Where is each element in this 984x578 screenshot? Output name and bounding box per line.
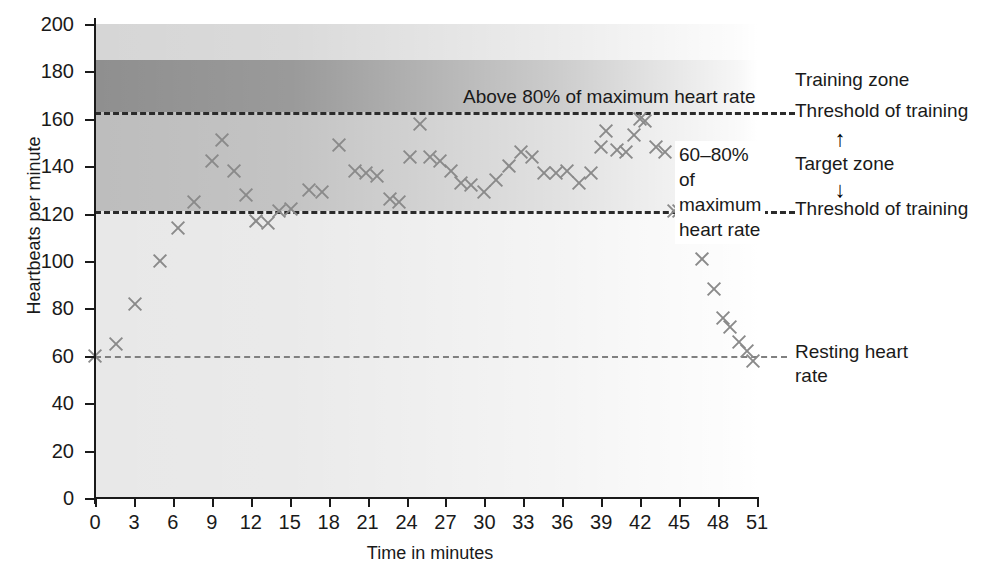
arrow-up-icon: ↑: [833, 131, 847, 147]
x-tick: [290, 498, 292, 507]
x-tick-label: 24: [387, 512, 427, 532]
x-tick-label: 33: [503, 512, 543, 532]
x-tick: [251, 498, 253, 507]
x-tick: [329, 498, 331, 507]
x-tick-label: 9: [192, 512, 232, 532]
x-tick: [679, 498, 681, 507]
y-tick: [85, 356, 95, 358]
target-zone-annotation: 60–80% of maximum heart rate: [675, 141, 765, 244]
x-tick: [445, 498, 447, 507]
x-tick-label: 45: [659, 512, 699, 532]
x-tick-label: 36: [542, 512, 582, 532]
legend-column: Training zone Threshold of training ↑ Ta…: [795, 0, 984, 578]
y-tick: [85, 24, 95, 26]
y-tick-label: 0: [28, 488, 74, 508]
x-tick: [484, 498, 486, 507]
chart-figure: Above 80% of maximum heart rate 60–80% o…: [0, 0, 984, 578]
arrow-down-icon: ↓: [833, 182, 847, 198]
x-tick-label: 15: [270, 512, 310, 532]
plot-area: Above 80% of maximum heart rate 60–80% o…: [95, 24, 757, 498]
x-tick: [718, 498, 720, 507]
x-tick: [212, 498, 214, 507]
below-target-band: [95, 211, 757, 498]
x-tick-label: 21: [348, 512, 388, 532]
x-tick: [368, 498, 370, 507]
y-tick-label: 200: [28, 14, 74, 34]
x-tick-label: 0: [75, 512, 115, 532]
upper-band: [95, 24, 757, 60]
x-tick-label: 42: [620, 512, 660, 532]
above-80-annotation: Above 80% of maximum heart rate: [463, 86, 756, 108]
x-axis-title: Time in minutes: [250, 543, 610, 564]
y-tick-label: 20: [28, 441, 74, 461]
legend-target-zone: Target zone: [795, 152, 894, 176]
x-tick-label: 39: [581, 512, 621, 532]
x-tick-label: 3: [114, 512, 154, 532]
y-tick: [85, 71, 95, 73]
y-tick: [85, 403, 95, 405]
x-tick-label: 30: [464, 512, 504, 532]
x-tick-label: 12: [231, 512, 271, 532]
y-tick-label: 40: [28, 393, 74, 413]
x-tick: [640, 498, 642, 507]
y-tick: [85, 119, 95, 121]
x-tick: [134, 498, 136, 507]
y-tick-label: 180: [28, 61, 74, 81]
x-tick-label: 48: [698, 512, 738, 532]
x-tick: [601, 498, 603, 507]
target-zone-annotation-line1: 60–80% of: [679, 142, 761, 192]
x-tick-label: 6: [153, 512, 193, 532]
y-tick: [85, 166, 95, 168]
reference-line-60: [95, 356, 787, 358]
x-tick: [757, 498, 759, 507]
x-tick: [95, 498, 97, 507]
y-tick: [85, 498, 95, 500]
target-zone-annotation-line2: maximum: [679, 192, 761, 217]
x-tick: [407, 498, 409, 507]
legend-resting-line2: rate: [795, 364, 828, 388]
target-zone-annotation-line3: heart rate: [679, 217, 761, 242]
y-axis-title: Heartbeats per minute: [24, 96, 45, 356]
y-tick: [85, 214, 95, 216]
x-tick: [173, 498, 175, 507]
legend-threshold-lower: Threshold of training: [795, 197, 968, 221]
x-tick-label: 18: [309, 512, 349, 532]
x-tick: [562, 498, 564, 507]
x-tick-label: 27: [425, 512, 465, 532]
legend-threshold-upper: Threshold of training: [795, 99, 968, 123]
x-tick: [523, 498, 525, 507]
reference-line-163: [95, 112, 795, 115]
x-tick-label: 51: [737, 512, 777, 532]
y-tick: [85, 308, 95, 310]
y-tick: [85, 451, 95, 453]
x-axis-line: [95, 497, 759, 499]
legend-training-zone: Training zone: [795, 68, 909, 92]
y-tick: [85, 261, 95, 263]
legend-resting-line1: Resting heart: [795, 340, 908, 364]
